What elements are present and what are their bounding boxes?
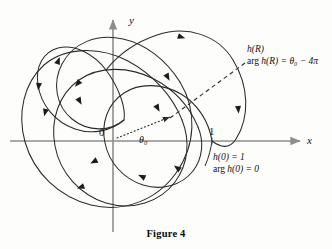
image-curve xyxy=(22,31,246,207)
arg-hR-prefix: arg xyxy=(247,56,259,66)
origin-label: 0 xyxy=(99,127,104,139)
figure-caption: Figure 4 xyxy=(0,228,332,239)
arrowhead xyxy=(235,106,242,114)
arrowhead xyxy=(163,73,172,83)
arrowhead xyxy=(153,104,162,114)
arrowhead xyxy=(75,97,84,107)
h0-leader xyxy=(205,141,212,166)
arg-h0-prefix: arg xyxy=(213,164,225,174)
arrowhead xyxy=(177,33,186,41)
hR-leader xyxy=(170,63,245,118)
arg-h0-expression: h(0) = 0 xyxy=(227,164,259,174)
arg-hR-expression: h(R) = θ₀ − 4π xyxy=(261,56,318,66)
dashed-leader xyxy=(170,63,245,118)
h0-leader-line xyxy=(205,141,212,166)
arrowhead xyxy=(137,172,146,181)
hR-label: h(R) xyxy=(247,44,264,55)
arrowhead xyxy=(41,108,49,117)
curve-outer-sweep xyxy=(106,31,246,146)
arg-h0-label: arg h(0) = 0 xyxy=(213,164,259,175)
arg-hR-label: arg h(R) = θ₀ − 4π xyxy=(247,56,318,67)
arrowhead xyxy=(89,157,99,166)
y-axis-label: y xyxy=(129,14,134,27)
figure-drawing xyxy=(0,0,332,249)
theta-zero-label: θ₀ xyxy=(139,134,147,146)
curve-middle-loop xyxy=(54,69,198,206)
figure-container: y x 0 1 θ₀ h(R) arg h(R) = θ₀ − 4π h(0) … xyxy=(0,0,332,249)
x-tick-label-one: 1 xyxy=(209,126,214,138)
x-axis-label: x xyxy=(307,134,312,147)
arrowhead xyxy=(76,183,85,191)
arrowhead xyxy=(35,83,42,91)
h0-value-label: h(0) = 1 xyxy=(213,152,245,163)
